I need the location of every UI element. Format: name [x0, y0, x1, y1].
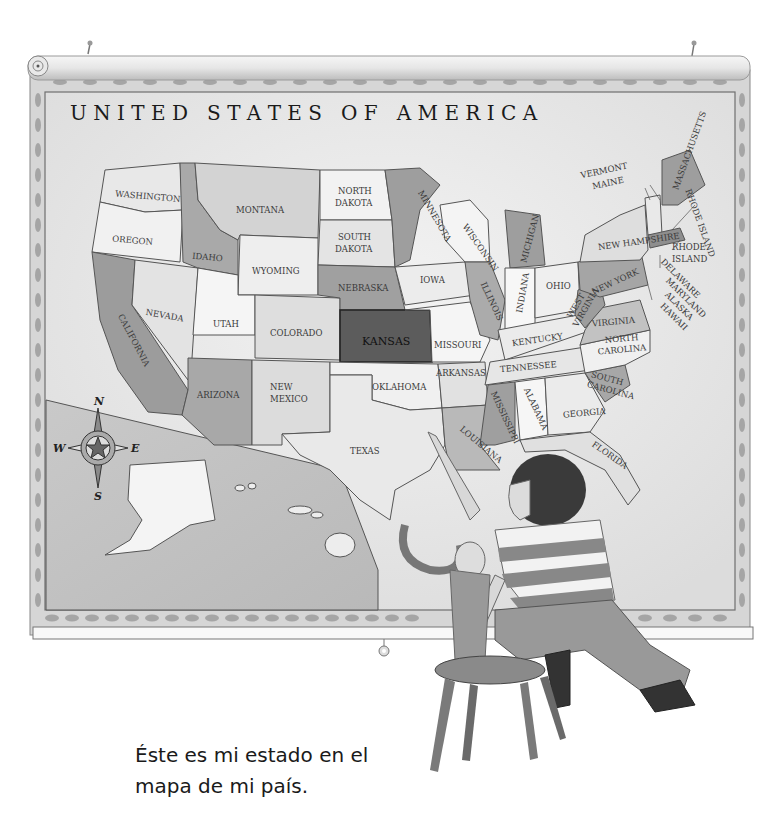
pull-ring-icon: [379, 639, 389, 656]
label-texas: TEXAS: [350, 446, 380, 456]
state-hawaii-big-island: [325, 533, 355, 557]
scroll-roller-top: [28, 56, 750, 80]
label-new-mexico-2: MEXICO: [270, 394, 308, 404]
label-south-dakota-2: DAKOTA: [335, 244, 373, 254]
leaf-border-right: [739, 93, 745, 607]
label-wyoming: WYOMING: [252, 266, 300, 276]
leaf-border-left: [35, 93, 41, 607]
label-colorado: COLORADO: [270, 328, 322, 338]
svg-text:N: N: [93, 395, 105, 408]
label-south-dakota: SOUTH: [338, 232, 371, 242]
caption-text: Éste es mi estado en el mapa de mi país.: [135, 740, 435, 802]
hook-right-icon: [692, 41, 697, 57]
caption-line-1: Éste es mi estado en el: [135, 740, 435, 771]
label-north-dakota: NORTH: [338, 186, 372, 196]
label-oklahoma: OKLAHOMA: [372, 382, 427, 392]
label-arizona: ARIZONA: [196, 390, 240, 400]
label-ohio: OHIO: [546, 281, 571, 291]
label-nebraska: NEBRASKA: [338, 283, 389, 293]
stool: [430, 656, 566, 772]
caption-line-2: mapa de mi país.: [135, 771, 435, 802]
hook-left-icon: [88, 41, 93, 55]
label-north-dakota-2: DAKOTA: [335, 198, 373, 208]
svg-text:S: S: [94, 490, 102, 503]
label-arkansas: ARKANSAS: [435, 368, 486, 378]
map-title: U N I T E D S T A T E S O F A M E R I C …: [70, 101, 538, 125]
label-iowa: IOWA: [420, 275, 446, 285]
svg-text:E: E: [130, 442, 140, 455]
label-new-mexico: NEW: [270, 382, 293, 392]
label-rhode-island-2: ISLAND: [672, 254, 707, 264]
label-missouri: MISSOURI: [434, 340, 481, 350]
label-kansas: KANSAS: [362, 335, 410, 348]
svg-text:W: W: [53, 442, 67, 455]
label-montana: MONTANA: [236, 205, 285, 215]
illustration: U N I T E D S T A T E S O F A M E R I C …: [0, 0, 781, 815]
label-utah: UTAH: [213, 319, 239, 329]
scroll-bar-bottom: [33, 627, 753, 639]
